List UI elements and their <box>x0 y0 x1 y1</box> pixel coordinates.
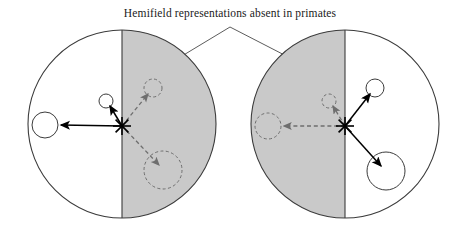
right-shaded-half <box>249 28 345 222</box>
left-shaded-half <box>122 28 218 222</box>
left-fixation-marker <box>113 117 131 135</box>
left-shaded-rect <box>122 28 218 222</box>
hemifield-figure: Hemifield representations absent in prim… <box>0 0 460 229</box>
upper-left-solid-arrow <box>110 106 122 126</box>
right-hemifield-diagram <box>249 28 439 222</box>
left-hemifield-diagram <box>28 28 218 222</box>
right-fixation-marker <box>336 117 354 135</box>
left-solid-arrow <box>61 125 122 126</box>
upper-right-solid-target-circle <box>366 79 384 97</box>
right-shaded-rect <box>249 28 345 222</box>
left-solid-target-circle <box>32 112 58 138</box>
upper-left-solid-target-circle <box>99 94 113 108</box>
figure-root: Hemifield representations absent in prim… <box>0 0 460 229</box>
figure-caption: Hemifield representations absent in prim… <box>124 7 337 20</box>
